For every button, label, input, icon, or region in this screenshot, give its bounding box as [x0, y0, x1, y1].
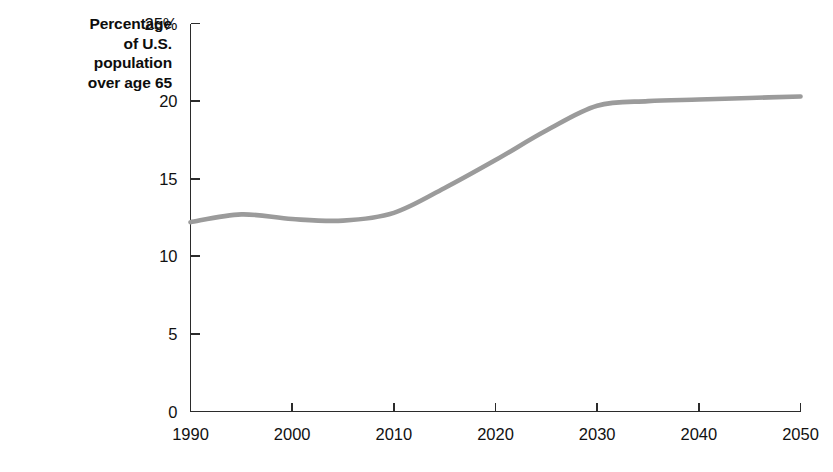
y-axis-group: 0510152025% — [144, 15, 199, 421]
y-tick-label-15: 15 — [159, 170, 177, 188]
x-tick-label-2050: 2050 — [782, 425, 819, 443]
y-tick-label-20: 20 — [159, 92, 177, 110]
x-tick-labels: 1990200020102020203020402050 — [172, 425, 819, 443]
chart-plot-area: 0510152025% 1990200020102020203020402050 — [0, 0, 833, 472]
series-line-population-over-65 — [191, 96, 801, 222]
data-series-group — [191, 96, 801, 222]
y-tick-label-10: 10 — [159, 247, 177, 265]
line-chart-figure: Percentage of U.S. population over age 6… — [0, 0, 833, 472]
x-tick-label-1990: 1990 — [172, 425, 209, 443]
y-tick-labels: 0510152025% — [144, 15, 177, 421]
x-tick-label-2030: 2030 — [579, 425, 616, 443]
x-tick-label-2010: 2010 — [375, 425, 412, 443]
x-tick-label-2020: 2020 — [477, 425, 514, 443]
x-tick-label-2040: 2040 — [680, 425, 717, 443]
y-tick-marks — [191, 24, 200, 412]
y-tick-label-5: 5 — [168, 325, 177, 343]
y-tick-label-0: 0 — [168, 403, 177, 421]
x-tick-marks — [191, 403, 801, 412]
y-tick-label-25: 25% — [144, 15, 177, 33]
x-tick-label-2000: 2000 — [274, 425, 311, 443]
x-axis-group: 1990200020102020203020402050 — [172, 403, 819, 443]
